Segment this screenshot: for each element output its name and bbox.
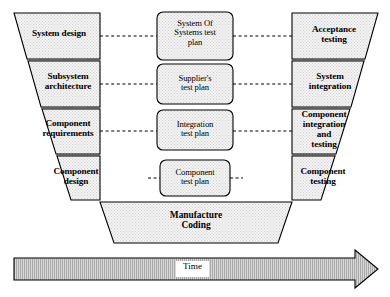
- box-system-of-systems-test-plan[interactable]: [157, 12, 233, 60]
- time-arrow-group: [14, 250, 378, 288]
- shape-component-requirements[interactable]: [42, 109, 100, 154]
- test-plan-boxes: [157, 12, 233, 196]
- box-component-test-plan[interactable]: [160, 160, 230, 196]
- time-label-background: [176, 261, 209, 277]
- box-suppliers-test-plan[interactable]: [157, 64, 233, 104]
- shape-system-design[interactable]: [14, 13, 100, 59]
- shape-component-integration-and-testing[interactable]: [292, 109, 350, 154]
- bottom-group: [100, 202, 292, 243]
- shape-subsystem-architecture[interactable]: [28, 61, 100, 107]
- box-integration-test-plan[interactable]: [157, 110, 233, 150]
- right-arm-group: [292, 13, 378, 200]
- shape-system-integration[interactable]: [292, 61, 364, 107]
- v-model-diagram: System design Subsystem architecture Com…: [0, 0, 390, 297]
- shape-acceptance-testing[interactable]: [292, 13, 378, 59]
- shape-component-testing[interactable]: [292, 156, 335, 200]
- left-arm-group: [14, 13, 100, 200]
- shape-manufacture-coding[interactable]: [100, 202, 292, 243]
- diagram-canvas: [0, 0, 390, 297]
- shape-component-design[interactable]: [57, 156, 100, 200]
